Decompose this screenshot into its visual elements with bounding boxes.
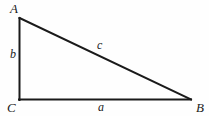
side-c-line (20, 18, 192, 100)
side-label-c: c (97, 39, 102, 51)
vertex-label-a: A (10, 2, 18, 15)
triangle-shape (0, 0, 209, 116)
vertex-label-b: B (196, 101, 204, 114)
side-label-a: a (98, 101, 104, 113)
vertex-label-c: C (7, 101, 16, 114)
right-triangle-figure: A B C a b c (0, 0, 209, 116)
side-label-b: b (10, 48, 16, 60)
